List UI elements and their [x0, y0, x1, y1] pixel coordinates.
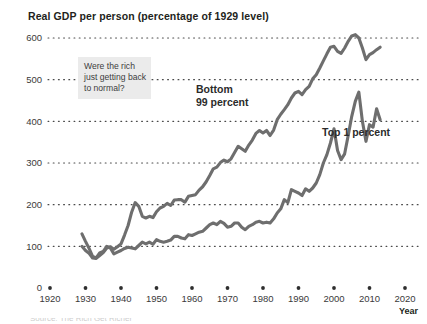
- chart-figure: Real GDP per person (percentage of 1929 …: [0, 0, 427, 324]
- annotation-note-line3: to normal?: [84, 83, 146, 94]
- chart-plot-area: 0100200300400500600192019301940195019601…: [0, 0, 427, 324]
- x-tick-marker-2020: [403, 286, 407, 290]
- x-tick-label-1920: 1920: [39, 293, 60, 304]
- annotation-note-line1: Were the rich: [84, 61, 146, 72]
- series-label-top-1-percent: Top 1 percent: [322, 126, 391, 138]
- x-tick-label-1950: 1950: [146, 293, 167, 304]
- x-tick-marker-1940: [119, 286, 123, 290]
- annotation-note-line2: just getting back: [84, 72, 146, 83]
- series-label-bottom-99-line1: Bottom: [196, 83, 233, 95]
- x-tick-label-1980: 1980: [252, 293, 273, 304]
- y-tick-label-500: 500: [26, 74, 42, 85]
- x-tick-marker-1990: [297, 286, 301, 290]
- series-label-bottom-99-line2: 99 percent: [196, 96, 249, 108]
- x-tick-marker-1950: [155, 286, 159, 290]
- y-tick-label-100: 100: [26, 241, 42, 252]
- x-tick-label-2010: 2010: [359, 293, 380, 304]
- x-tick-label-1970: 1970: [217, 293, 238, 304]
- x-tick-marker-2010: [368, 286, 372, 290]
- x-tick-marker-1970: [226, 286, 230, 290]
- x-tick-marker-1920: [48, 286, 52, 290]
- y-tick-label-600: 600: [26, 32, 42, 43]
- y-tick-label-200: 200: [26, 199, 42, 210]
- annotation-were-the-rich-note: Were the richjust getting backto normal?: [78, 57, 151, 99]
- footer-caption-text: Source: The Rich Get Richer: [30, 318, 270, 324]
- x-tick-marker-1960: [190, 286, 194, 290]
- x-tick-marker-2000: [332, 286, 336, 290]
- x-tick-label-1930: 1930: [75, 293, 96, 304]
- x-tick-label-1960: 1960: [181, 293, 202, 304]
- y-tick-label-300: 300: [26, 157, 42, 168]
- x-tick-marker-1980: [261, 286, 265, 290]
- y-tick-label-400: 400: [26, 116, 42, 127]
- footer-caption: Source: The Rich Get Richer: [30, 318, 270, 324]
- x-tick-label-2020: 2020: [394, 293, 415, 304]
- x-axis-title: Year: [399, 306, 419, 316]
- x-tick-marker-1930: [84, 286, 88, 290]
- x-tick-label-1990: 1990: [288, 293, 309, 304]
- x-tick-label-1940: 1940: [110, 293, 131, 304]
- x-tick-label-2000: 2000: [323, 293, 344, 304]
